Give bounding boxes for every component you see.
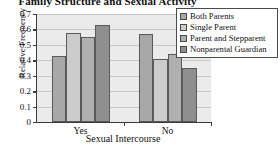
legend-item[interactable]: Single Parent: [180, 22, 275, 33]
y-axis-tick-mark: [33, 45, 37, 46]
legend-swatch-icon: [180, 24, 187, 31]
y-axis-tick-mark: [33, 107, 37, 108]
y-axis-tick-mark: [33, 122, 37, 123]
legend-item-label: Nonparental Guardian: [190, 44, 267, 55]
y-axis-tick-label: 0.5: [20, 40, 31, 50]
x-axis-label: Sexual Intercourse: [36, 133, 210, 144]
legend-item[interactable]: Both Parents: [180, 11, 275, 22]
chart-title: Family Structure and Sexual Activity: [0, 0, 215, 7]
y-axis-tick-label: 0.4: [20, 55, 31, 65]
y-axis-tick-mark: [33, 76, 37, 77]
y-axis-tick-mark: [33, 29, 37, 30]
y-axis-tick-label: 0.6: [20, 24, 31, 34]
y-axis-tick-label: 0.3: [20, 71, 31, 81]
legend-swatch-icon: [180, 35, 187, 42]
y-axis-tick-label: 0.7: [20, 9, 31, 19]
chart-container: Family Structure and Sexual Activity Rel…: [0, 0, 280, 151]
y-axis-tick-label: 0.2: [20, 86, 31, 96]
y-axis-tick-mark: [33, 60, 37, 61]
bar: [153, 59, 168, 122]
y-axis-tick-mark: [33, 91, 37, 92]
bar: [139, 34, 154, 122]
legend-item-label: Both Parents: [190, 11, 234, 22]
y-axis-tick-mark: [33, 14, 37, 15]
bar: [52, 56, 67, 122]
bar: [66, 33, 81, 122]
bar: [95, 25, 110, 122]
bar: [168, 54, 183, 122]
legend: Both ParentsSingle ParentParent and Step…: [176, 8, 278, 58]
legend-item[interactable]: Parent and Stepparent: [180, 33, 275, 44]
legend-item-label: Single Parent: [190, 22, 236, 33]
bar: [182, 68, 197, 122]
y-axis-tick-label: 0: [27, 117, 32, 127]
legend-item[interactable]: Nonparental Guardian: [180, 44, 275, 55]
legend-item-label: Parent and Stepparent: [190, 33, 265, 44]
x-axis-tick-mark: [124, 122, 125, 126]
bar: [81, 37, 96, 122]
x-axis-tick-mark: [211, 122, 212, 126]
legend-swatch-icon: [180, 46, 187, 53]
legend-swatch-icon: [180, 13, 187, 20]
y-axis-tick-label: 0.1: [20, 102, 31, 112]
